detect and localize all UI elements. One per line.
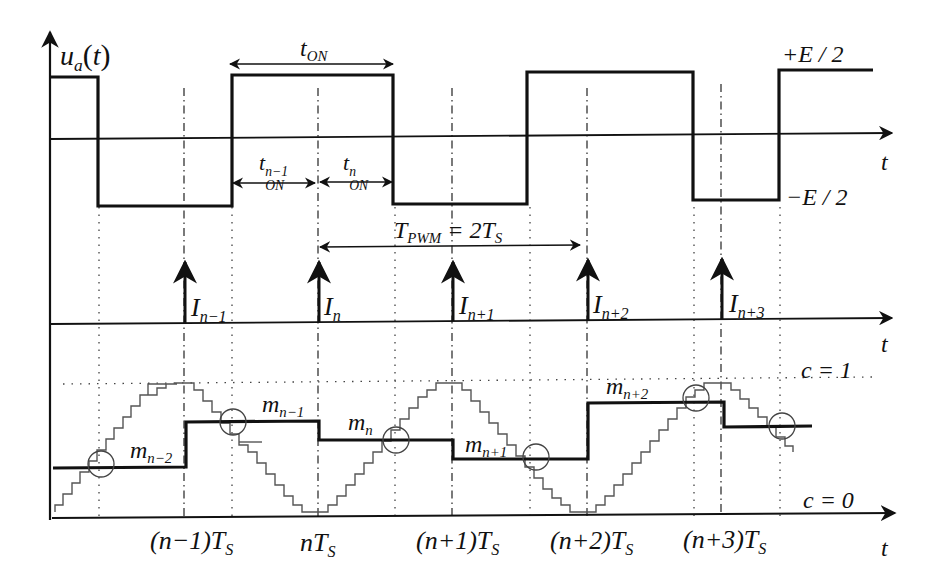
- m-label-n-plus-2: mn+2: [606, 374, 648, 402]
- impulse-label-n-plus-2: In+2: [593, 292, 629, 322]
- bottom-t-axis-label: t: [881, 536, 888, 560]
- top-t-axis-label: t: [881, 150, 888, 174]
- impulse-label-n-plus-3: In+3: [729, 291, 765, 321]
- tick-label-n-plus-3: (n+3)TS: [683, 527, 766, 557]
- impulse-label-n-plus-1: In+1: [459, 293, 495, 323]
- timing-diagram: [0, 0, 938, 582]
- impulse-label-n-minus-1: In−1: [191, 295, 227, 325]
- tick-label-n-minus-1: (n−1)TS: [150, 528, 233, 558]
- impulse-label-n: In: [324, 294, 341, 324]
- tick-label-n-plus-1: (n+1)TS: [416, 528, 499, 558]
- m-label-n: mn: [348, 410, 373, 438]
- m-label-n-minus-1: mn−1: [262, 392, 304, 420]
- t-pwm-label: TPWM = 2TS: [394, 218, 502, 246]
- c1-label: c = 1: [801, 358, 852, 382]
- m-label-n-minus-2: mn−2: [130, 438, 172, 466]
- high-level-label: +E / 2: [782, 42, 844, 66]
- tick-label-n-plus-2: (n+2)TS: [550, 528, 633, 558]
- t-on-label: tON: [300, 36, 327, 64]
- m-label-n-plus-1: mn+1: [465, 432, 507, 460]
- t-on-prev-label: tn−1ON: [259, 152, 288, 192]
- c0-label: c = 0: [803, 488, 854, 512]
- top-time-axis: [50, 133, 892, 139]
- crossing-markers: [88, 385, 795, 477]
- y-axis-label: ua(t): [60, 40, 110, 74]
- switching-guides: [99, 207, 780, 516]
- bottom-time-axis: [52, 513, 895, 518]
- t-on-n-label: tnON: [343, 152, 368, 192]
- tick-label-n: nTS: [300, 530, 336, 560]
- current-impulses: [185, 259, 722, 323]
- middle-t-axis-label: t: [881, 332, 888, 356]
- low-level-label: −E / 2: [786, 185, 848, 209]
